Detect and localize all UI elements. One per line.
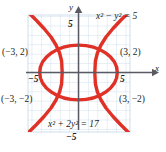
equation-label-ellipse: x² + 2y² = 17 bbox=[48, 120, 99, 130]
equation-label-hyperbola: x² − y² = 5 bbox=[96, 12, 137, 22]
x-axis-name: x bbox=[155, 64, 159, 73]
x-axis-tick-label-5: 5 bbox=[120, 75, 125, 85]
x-axis-tick-label-negative-5: −5 bbox=[28, 75, 39, 85]
y-axis-name: y bbox=[69, 3, 73, 12]
point-label-top-left: (−3, 2) bbox=[2, 48, 28, 58]
point-label-top-right: (3, 2) bbox=[120, 48, 141, 58]
point-label-bottom-right: (3, −2) bbox=[119, 95, 145, 105]
y-axis-tick-label-5: 5 bbox=[68, 20, 73, 30]
point-label-bottom-left: (−3, −2) bbox=[1, 95, 32, 105]
y-axis-tick-label-negative-5: −5 bbox=[66, 133, 77, 143]
y-axis-arrow bbox=[75, 6, 83, 13]
graph-figure: x² − y² = 5 x² + 2y² = 17 (−3, 2) (3, 2)… bbox=[0, 0, 166, 152]
